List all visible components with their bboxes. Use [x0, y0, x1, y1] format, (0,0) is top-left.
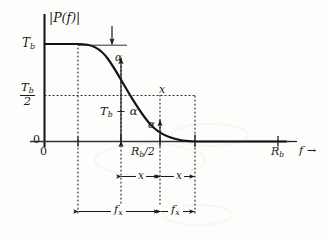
axes	[30, 14, 297, 147]
y-axis-label: |P(f)|	[49, 12, 80, 25]
alpha-top-label: α	[115, 52, 122, 63]
x-span-right-label: x	[174, 170, 184, 181]
fx-span-right-label: fx	[168, 204, 183, 217]
y-tick-label-tb-half: Tb 2	[20, 82, 35, 108]
x-axis-arrow-icon: →	[307, 144, 316, 157]
fx-span-left-label: fx	[111, 204, 126, 217]
alpha-bottom-label: α	[148, 119, 155, 130]
origin-label: 0	[40, 146, 47, 157]
x-tick-label-rb-half: Rb/2	[131, 146, 155, 158]
curve-x-label: x	[159, 84, 165, 95]
figure-root: |P(f)| Tb Tb 2 0 0 Rb/2 Rb f → α α Tb − …	[0, 0, 327, 241]
spectrum-curve	[45, 44, 286, 142]
x-tick-label-rb: Rb	[271, 146, 284, 158]
raised-cosine-figure	[0, 0, 327, 241]
y-tick-label-tb: Tb	[22, 37, 35, 50]
tb-minus-alpha-label: Tb − α	[100, 106, 137, 119]
x-span-left-label: x	[136, 170, 146, 181]
y-tick-label-zero: 0	[33, 134, 40, 145]
x-axis-label: f →	[299, 145, 316, 157]
alpha-top-annotation	[78, 26, 127, 45]
